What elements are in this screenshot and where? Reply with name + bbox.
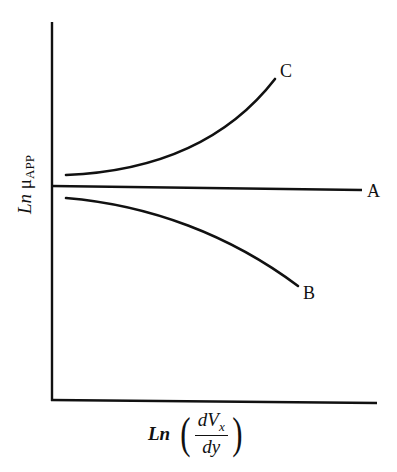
chart-canvas — [0, 0, 397, 472]
curve-a-label: A — [367, 181, 380, 202]
curve-c — [66, 79, 275, 175]
x-label-ln: Ln — [148, 423, 170, 445]
x-axis-label: Ln ( dVx dy ) — [148, 410, 244, 458]
y-label-ln: Ln — [14, 194, 35, 214]
x-axis — [51, 400, 377, 403]
x-label-numerator: dVx — [195, 410, 228, 436]
x-label-paren-open: ( — [180, 412, 190, 456]
y-label-sub: APP — [22, 155, 37, 179]
curve-b-label: B — [303, 283, 315, 304]
curve-c-label: C — [280, 61, 292, 82]
x-label-denominator: dy — [202, 436, 220, 458]
x-label-paren-close: ) — [232, 412, 242, 456]
x-label-fraction: dVx dy — [195, 410, 228, 458]
y-label-mu: μ — [14, 179, 35, 189]
curve-b — [66, 198, 298, 286]
y-axis-label: Ln μAPP — [14, 155, 38, 214]
curve-a — [52, 186, 362, 190]
